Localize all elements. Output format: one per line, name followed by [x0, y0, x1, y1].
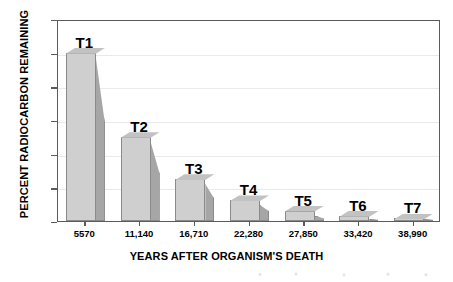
x-tick-mark — [249, 222, 250, 226]
bar — [394, 218, 424, 221]
bar-front-face — [230, 200, 260, 221]
x-tick-label: 22,280 — [234, 228, 263, 239]
bar-side-face — [96, 58, 105, 221]
bar — [285, 211, 315, 221]
x-tick-mark — [303, 222, 304, 226]
chart-figure: PERCENT RADIOCARBON REMAINING 0102030405… — [0, 0, 453, 282]
x-tick-mark — [413, 222, 414, 226]
bar-front-face — [66, 53, 96, 221]
bar — [121, 137, 151, 221]
bar-label: T1 — [76, 34, 94, 51]
x-tick-mark — [84, 222, 85, 226]
x-tick-mark — [139, 222, 140, 226]
bar — [66, 53, 96, 221]
gridline — [58, 156, 439, 157]
bar-label: T7 — [404, 199, 422, 216]
x-tick-label: 33,420 — [343, 228, 372, 239]
bar — [175, 179, 205, 221]
x-axis-title: YEARS AFTER ORGANISM'S DEATH — [0, 250, 453, 262]
x-tick-label: 5570 — [74, 228, 95, 239]
bar — [230, 200, 260, 221]
bar-label: T2 — [130, 118, 148, 135]
bar-side-face — [151, 142, 160, 221]
bar-front-face — [175, 179, 205, 221]
bar-label: T5 — [294, 192, 312, 209]
x-tick-mark — [358, 222, 359, 226]
bar-side-face — [424, 219, 433, 221]
bar — [339, 216, 369, 221]
y-tick-mark — [51, 222, 57, 223]
x-tick-mark — [194, 222, 195, 226]
bar-label: T3 — [185, 160, 203, 177]
bar-front-face — [285, 211, 315, 221]
y-axis-title: PERCENT RADIOCARBON REMAINING — [18, 6, 30, 222]
gridline — [58, 122, 439, 123]
bar-front-face — [121, 137, 151, 221]
bar-side-face — [369, 219, 378, 221]
gridline — [58, 88, 439, 89]
bar-side-face — [260, 205, 269, 221]
x-tick-label: 16,710 — [179, 228, 208, 239]
x-tick-label: 27,850 — [289, 228, 318, 239]
x-tick-label: 38,990 — [398, 228, 427, 239]
gridline — [58, 55, 439, 56]
x-tick-label: 11,140 — [125, 228, 154, 239]
scan-artifact — [240, 272, 440, 277]
bar-label: T6 — [349, 197, 367, 214]
bar-side-face — [315, 216, 324, 221]
bar-label: T4 — [240, 181, 258, 198]
